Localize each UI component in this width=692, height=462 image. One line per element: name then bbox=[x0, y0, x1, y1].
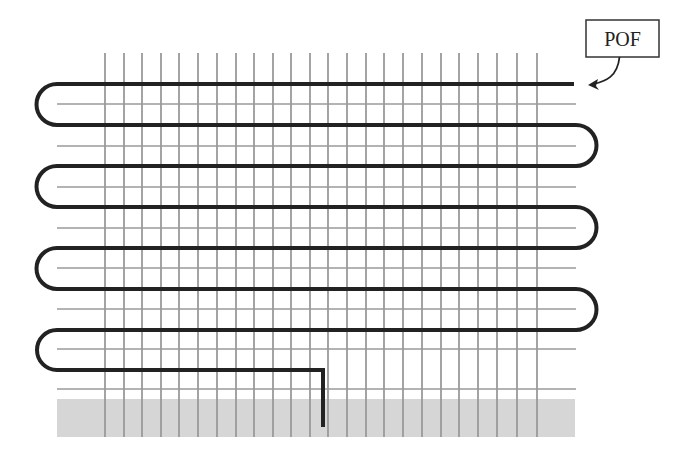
pof-embedded-mesh-diagram: POF bbox=[0, 0, 692, 462]
pof-label-text: POF bbox=[604, 28, 641, 50]
background bbox=[0, 0, 692, 462]
